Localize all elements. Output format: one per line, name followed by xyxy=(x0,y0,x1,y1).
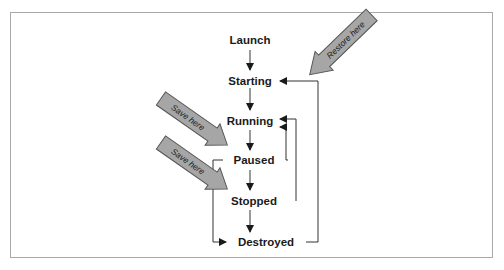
states: Launch Starting Running Paused Stopped D… xyxy=(227,34,294,248)
state-starting: Starting xyxy=(228,75,271,87)
state-paused: Paused xyxy=(234,154,275,166)
state-destroyed: Destroyed xyxy=(238,236,294,248)
state-running: Running xyxy=(227,115,274,127)
lifecycle-diagram: Launch Starting Running Paused Stopped D… xyxy=(0,0,504,270)
callout-restore: Restore here xyxy=(301,6,381,84)
state-stopped: Stopped xyxy=(231,195,277,207)
state-launch: Launch xyxy=(230,34,271,46)
callout-restore-label: Restore here xyxy=(325,19,367,61)
